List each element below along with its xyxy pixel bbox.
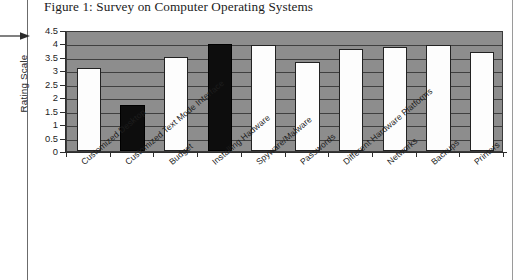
bar [77,68,101,151]
x-axis-tick [459,152,460,157]
bar [339,49,363,151]
figure-page: Figure 1: Survey on Computer Operating S… [0,0,523,280]
bar [295,62,319,151]
bar-chart: 4.543.532.521.510.50 Rating Scale Custom… [0,0,523,280]
x-axis-tick [197,152,198,157]
y-axis-tick [60,98,65,99]
y-axis-tick [60,31,65,32]
y-axis-title: Rating Scale [18,39,29,129]
x-axis-tick [328,152,329,157]
x-axis-tick [241,152,242,157]
x-axis-tick [153,152,154,157]
bar [383,47,407,151]
bar [470,52,494,151]
x-axis-tick [110,152,111,157]
x-axis-tick [503,152,504,157]
y-axis-tick [60,71,65,72]
x-axis-tick [285,152,286,157]
y-axis-tick-label: 0 [18,147,58,156]
y-axis-tick-label: 4.5 [18,26,58,35]
bar [251,45,275,151]
y-axis-tick [60,58,65,59]
y-axis-tick [60,112,65,113]
y-axis-tick [60,85,65,86]
bar [164,57,188,151]
y-axis-line [65,31,66,153]
y-axis-tick-label: 0.5 [18,134,58,143]
x-axis-tick [416,152,417,157]
x-axis-tick [66,152,67,157]
y-axis-tick [60,139,65,140]
x-axis-tick [372,152,373,157]
y-axis-tick [60,44,65,45]
y-axis-tick [60,125,65,126]
bar [426,45,450,151]
y-axis-tick [60,152,65,153]
